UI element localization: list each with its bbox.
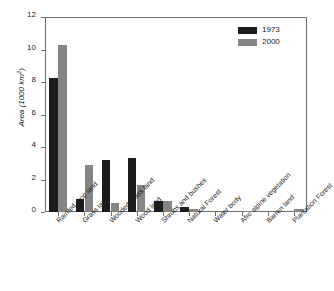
- bar-1973-0: [49, 78, 58, 212]
- legend-swatch-1973: [238, 27, 257, 34]
- y-axis-tick-label: 2: [32, 174, 36, 182]
- bar-2000-0: [58, 45, 67, 212]
- y-axis-tick-label: 0: [32, 206, 36, 214]
- legend-swatch-2000: [238, 39, 257, 46]
- y-axis-tick-mark: [41, 212, 45, 213]
- y-axis-tick-label: 12: [27, 11, 36, 19]
- y-axis-tick-label: 8: [32, 76, 36, 84]
- y-axis-tick-label: 6: [32, 109, 36, 117]
- y-axis-title-suffix: ): [17, 68, 26, 71]
- legend-label-2000: 2000: [262, 37, 280, 47]
- y-axis-tick-label: 10: [27, 44, 36, 52]
- legend-item-2000: 2000: [238, 37, 280, 47]
- y-axis-title: Area (1000 km2): [16, 42, 27, 152]
- legend-item-1973: 1973: [238, 25, 280, 35]
- legend-label-1973: 1973: [262, 25, 280, 35]
- y-axis-tick-label: 4: [32, 141, 36, 149]
- legend: 1973 2000: [238, 25, 280, 49]
- y-axis-title-prefix: Area (1000 km: [17, 74, 26, 126]
- y-axis-title-superscript: 2: [16, 71, 22, 74]
